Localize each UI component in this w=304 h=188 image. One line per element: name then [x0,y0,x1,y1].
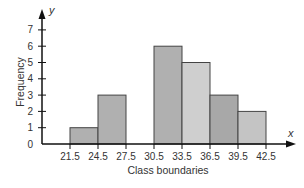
y-axis-title: Frequency [14,56,26,106]
x-tick-label: 39.5 [228,151,248,162]
x-ticks: 21.524.527.530.533.536.539.542.5 [60,144,276,162]
y-tick-label: 5 [27,57,33,68]
x-tick-label: 30.5 [144,151,164,162]
histogram-bar [182,63,210,145]
y-tick-label: 0 [27,139,33,150]
y-tick-label: 7 [27,24,33,35]
y-axis-arrow-icon [39,9,46,19]
y-tick-label: 3 [27,90,33,101]
x-axis-arrow-icon [286,141,296,148]
y-ticks: 01234567 [27,24,46,149]
histogram-bar [238,111,266,144]
y-axis-variable: y [48,4,56,16]
y-tick-label: 2 [27,106,33,117]
histogram-chart: 01234567 21.524.527.530.533.536.539.542.… [0,0,304,188]
x-axis-variable: x [287,127,294,139]
x-tick-label: 27.5 [116,151,136,162]
y-tick-label: 4 [27,73,33,84]
x-tick-label: 21.5 [60,151,80,162]
x-tick-label: 33.5 [172,151,192,162]
x-tick-label: 42.5 [256,151,276,162]
histogram-bar [154,46,182,144]
x-axis-title: Class boundaries [127,164,208,176]
x-tick-label: 24.5 [88,151,108,162]
x-tick-label: 36.5 [200,151,220,162]
histogram-bar [210,95,238,144]
histogram-bar [70,128,98,144]
histogram-bar [98,95,126,144]
y-tick-label: 6 [27,41,33,52]
y-tick-label: 1 [27,122,33,133]
histogram-bars [70,46,266,144]
